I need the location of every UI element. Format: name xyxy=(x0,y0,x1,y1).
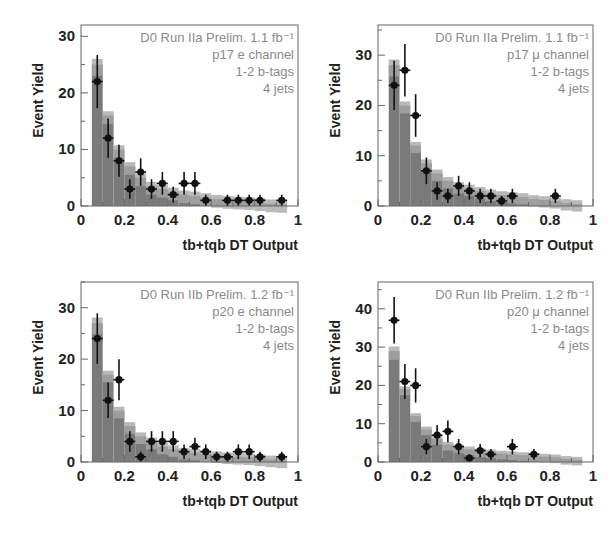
data-point-marker xyxy=(466,455,473,462)
data-point-marker xyxy=(246,448,253,455)
y-tick-label: 20 xyxy=(58,84,75,101)
uncertainty-band xyxy=(421,427,432,436)
x-tick-label: 1 xyxy=(294,467,302,484)
annotation-line: 4 jets xyxy=(263,338,295,353)
annotation-line: D0 Run IIa Prelim. 1.1 fb⁻¹ xyxy=(435,30,589,45)
annotation-line: p20 e channel xyxy=(212,304,294,319)
data-point-marker xyxy=(246,197,253,204)
data-point-marker xyxy=(423,167,430,174)
annotation-line: D0 Run IIa Prelim. 1.1 fb⁻¹ xyxy=(140,30,294,45)
y-tick-label: 0 xyxy=(364,453,372,470)
uncertainty-band xyxy=(561,456,572,465)
panel-bottom-left: 0102030 00.20.40.60.81 Event Yield tb+tq… xyxy=(30,282,302,509)
data-point-marker xyxy=(423,443,430,450)
uncertainty-band xyxy=(265,456,276,468)
x-axis-title: tb+tqb DT Output xyxy=(478,237,594,253)
prediction-histogram xyxy=(389,60,583,212)
data-point-marker xyxy=(224,453,231,460)
data-point-marker xyxy=(126,185,133,192)
x-tick-label: 0 xyxy=(77,211,85,228)
x-tick-label: 0.8 xyxy=(540,211,561,228)
annotation-block: D0 Run IIa Prelim. 1.1 fb⁻¹p17 μ channel… xyxy=(435,30,589,96)
data-point-marker xyxy=(444,428,451,435)
uncertainty-band xyxy=(539,454,550,463)
prediction-histogram xyxy=(92,59,287,213)
data-point-marker xyxy=(148,185,155,192)
data-point-marker xyxy=(434,432,441,439)
uncertainty-band xyxy=(518,193,529,204)
y-tick-label: 10 xyxy=(58,140,75,157)
y-tick-label: 20 xyxy=(355,376,372,393)
uncertainty-band xyxy=(464,446,475,455)
x-tick-label: 0.4 xyxy=(454,211,476,228)
annotation-line: 4 jets xyxy=(558,81,590,96)
x-tick-label: 1 xyxy=(589,211,597,228)
data-point-marker xyxy=(401,67,408,74)
annotation-block: D0 Run IIb Prelim. 1.2 fb⁻¹p20 μ channel… xyxy=(435,287,589,353)
y-tick-label: 20 xyxy=(355,96,372,113)
x-tick-label: 0.2 xyxy=(114,467,135,484)
x-tick-label: 1 xyxy=(294,211,302,228)
data-point-marker xyxy=(412,112,419,119)
data-point-marker xyxy=(498,197,505,204)
data-point-marker xyxy=(191,443,198,450)
y-tick-label: 30 xyxy=(58,299,75,316)
histogram-bin xyxy=(410,146,421,206)
annotation-line: p20 μ channel xyxy=(507,304,589,319)
data-point-marker xyxy=(509,192,516,199)
annotation-line: 1-2 b-tags xyxy=(235,321,294,336)
y-axis-title: Event Yield xyxy=(327,320,343,395)
annotation-block: D0 Run IIb Prelim. 1.2 fb⁻¹p20 e channel… xyxy=(140,287,294,353)
y-axis-ticks: 0102030 xyxy=(58,282,88,470)
x-axis-title: tb+tqb DT Output xyxy=(183,493,299,509)
data-point-marker xyxy=(552,192,559,199)
uncertainty-band xyxy=(561,199,572,210)
histogram-bin xyxy=(400,105,411,206)
data-point-marker xyxy=(94,78,101,85)
annotation-line: 4 jets xyxy=(558,338,590,353)
data-point-marker xyxy=(477,192,484,199)
annotation-line: 1-2 b-tags xyxy=(530,64,589,79)
y-axis-title: Event Yield xyxy=(327,63,343,138)
y-axis-title: Event Yield xyxy=(30,320,46,395)
data-point-marker xyxy=(466,187,473,194)
x-tick-label: 0.4 xyxy=(157,211,179,228)
y-tick-label: 10 xyxy=(355,415,372,432)
data-point-marker xyxy=(434,187,441,194)
uncertainty-band xyxy=(410,413,421,422)
panel-top-right: 0102030 00.20.40.60.81 Event Yield tb+tq… xyxy=(327,25,597,253)
x-tick-label: 0 xyxy=(374,211,382,228)
y-axis-ticks: 0102030 xyxy=(355,30,385,214)
data-point-marker xyxy=(256,197,263,204)
x-tick-label: 0 xyxy=(374,467,382,484)
data-point-marker xyxy=(391,317,398,324)
data-point-marker xyxy=(487,192,494,199)
y-tick-label: 10 xyxy=(355,147,372,164)
data-point-marker xyxy=(170,191,177,198)
y-tick-label: 0 xyxy=(67,197,75,214)
uncertainty-band xyxy=(114,407,125,419)
data-point-marker xyxy=(115,376,122,383)
annotation-line: 1-2 b-tags xyxy=(235,64,294,79)
annotation-line: D0 Run IIb Prelim. 1.2 fb⁻¹ xyxy=(435,287,589,302)
x-tick-label: 0.6 xyxy=(201,467,222,484)
data-point-marker xyxy=(115,157,122,164)
annotation-line: D0 Run IIb Prelim. 1.2 fb⁻¹ xyxy=(140,287,294,302)
data-point-marker xyxy=(391,82,398,89)
x-axis-title: tb+tqb DT Output xyxy=(183,237,299,253)
annotation-line: 1-2 b-tags xyxy=(530,321,589,336)
data-point-marker xyxy=(224,197,231,204)
y-axis-ticks: 0102030 xyxy=(58,27,88,214)
x-tick-label: 0.6 xyxy=(201,211,222,228)
data-point-marker xyxy=(105,135,112,142)
data-point-marker xyxy=(170,438,177,445)
x-tick-label: 0.2 xyxy=(411,211,432,228)
data-point-marker xyxy=(137,453,144,460)
y-tick-label: 20 xyxy=(58,350,75,367)
x-tick-label: 0.8 xyxy=(244,211,265,228)
data-point-marker xyxy=(126,438,133,445)
histogram-bin xyxy=(400,389,411,462)
uncertainty-band xyxy=(443,442,454,451)
data-point-marker xyxy=(530,451,537,458)
annotation-block: D0 Run IIa Prelim. 1.1 fb⁻¹p17 e channel… xyxy=(140,30,294,96)
